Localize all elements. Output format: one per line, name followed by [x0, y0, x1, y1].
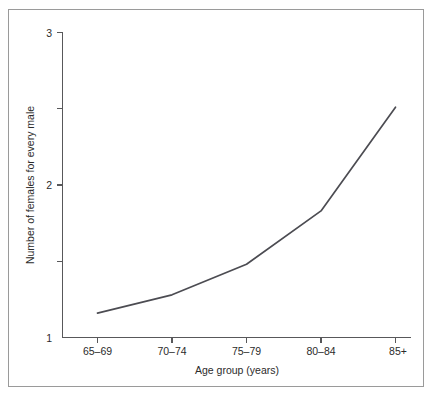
- x-tick-label-85-plus: 85+: [389, 345, 407, 357]
- y-axis-title: Number of females for every male: [24, 106, 36, 264]
- x-tick-label-65-69: 65–69: [83, 345, 112, 357]
- x-tick-label-75-79: 75–79: [232, 345, 261, 357]
- y-tick-label-3: 3: [46, 27, 52, 39]
- y-tick-label-2: 2: [46, 179, 52, 191]
- data-series-line: [98, 107, 396, 313]
- x-tick-label-70-74: 70–74: [157, 345, 186, 357]
- line-chart-plot: 3 2 1 65–69 70–74 75–79 80–84 85+ Age gr…: [0, 0, 432, 396]
- x-axis-title: Age group (years): [195, 364, 279, 376]
- chart-figure: 3 2 1 65–69 70–74 75–79 80–84 85+ Age gr…: [0, 0, 432, 396]
- y-tick-label-1: 1: [46, 332, 52, 344]
- x-tick-label-80-84: 80–84: [306, 345, 335, 357]
